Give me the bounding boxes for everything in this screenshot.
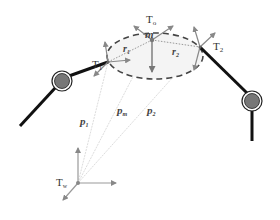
contact-point-right xyxy=(198,45,201,48)
label-object-frame: To xyxy=(146,13,157,27)
label-pos-mass: pm xyxy=(116,104,128,117)
object-ellipse xyxy=(107,33,203,79)
world-frame-axes xyxy=(63,148,116,200)
right-joint xyxy=(242,91,262,111)
label-pos-left: p1 xyxy=(79,115,89,128)
label-contact-left: T1 xyxy=(92,58,103,72)
label-world-frame: Tw xyxy=(56,176,68,189)
left-joint xyxy=(52,71,72,91)
label-contact-right: T2 xyxy=(213,40,224,54)
dual-arm-object-diagram: To m T1 T2 r1 r2 p1 pm p2 Tw xyxy=(0,0,280,220)
contact-point-left xyxy=(106,60,109,63)
label-mass: m xyxy=(145,28,154,40)
label-pos-right: p2 xyxy=(146,104,156,117)
